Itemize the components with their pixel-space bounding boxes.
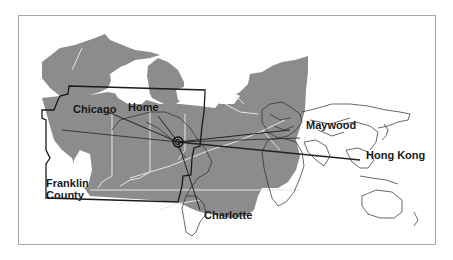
label-charlotte: Charlotte xyxy=(204,209,252,221)
label-chicago: Chicago xyxy=(73,103,116,115)
label-hong-kong: Hong Kong xyxy=(366,149,425,161)
label-franklin-county-line2: County xyxy=(46,189,84,201)
label-franklin-county-line1: Franklin xyxy=(46,177,89,189)
label-maywood: Maywood xyxy=(306,119,356,131)
label-home: Home xyxy=(128,101,159,113)
map-canvas xyxy=(0,0,453,260)
